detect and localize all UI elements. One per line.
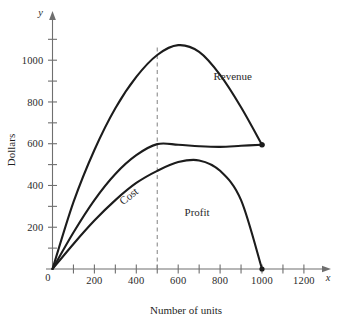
x-tick-label: 400 bbox=[128, 275, 144, 286]
y-axis-tick-labels: 2004006008001000 bbox=[22, 55, 44, 233]
y-axis-variable-name: y bbox=[37, 7, 43, 18]
x-axis-tick-labels: 20040060080010001200 bbox=[86, 275, 315, 286]
curve-endpoint-markers bbox=[259, 142, 264, 271]
x-tick-label: 600 bbox=[170, 275, 186, 286]
endpoint-dot-cost bbox=[259, 142, 264, 147]
x-axis-title: Number of units bbox=[150, 304, 222, 316]
x-tick-label: 1000 bbox=[251, 275, 273, 286]
y-tick-label: 200 bbox=[27, 222, 43, 233]
x-tick-label: 800 bbox=[212, 275, 228, 286]
y-tick-label: 400 bbox=[27, 180, 43, 191]
y-tick-label: 800 bbox=[27, 97, 43, 108]
y-axis bbox=[49, 11, 56, 269]
x-tick-label: 200 bbox=[86, 275, 102, 286]
annotation-revenue: Revenue bbox=[213, 70, 252, 82]
x-tick-label: 1200 bbox=[293, 275, 315, 286]
chart-figure: 20040060080010001200 2004006008001000 y … bbox=[0, 0, 343, 325]
annotation-cost: Cost bbox=[117, 185, 140, 207]
x-axis bbox=[46, 266, 331, 273]
y-axis-arrow bbox=[49, 11, 56, 20]
endpoint-dot-profit bbox=[259, 266, 264, 271]
origin-label: 0 bbox=[45, 272, 50, 283]
annotation-profit: Profit bbox=[185, 206, 210, 218]
y-tick-label: 1000 bbox=[22, 55, 44, 66]
y-tick-label: 600 bbox=[27, 138, 43, 149]
x-axis-variable-name: x bbox=[325, 272, 331, 283]
chart-svg: 20040060080010001200 2004006008001000 y … bbox=[0, 0, 343, 325]
y-axis-title: Dollars bbox=[5, 134, 17, 166]
